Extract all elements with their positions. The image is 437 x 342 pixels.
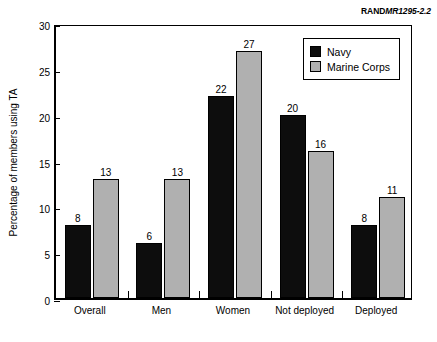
bar-men-navy bbox=[136, 243, 162, 298]
publisher-name: RAND bbox=[361, 6, 385, 16]
legend: NavyMarine Corps bbox=[303, 38, 400, 80]
x-axis-tick bbox=[271, 291, 272, 299]
bar-value-label: 16 bbox=[315, 139, 326, 150]
y-axis-tick-label: 20 bbox=[39, 112, 50, 123]
legend-label: Marine Corps bbox=[327, 61, 390, 73]
y-axis-tick bbox=[54, 301, 60, 302]
y-axis-tick-label: 25 bbox=[39, 66, 50, 77]
legend-swatch-icon bbox=[310, 61, 321, 72]
bar-value-label: 20 bbox=[287, 103, 298, 114]
y-axis-tick-label: 0 bbox=[44, 296, 50, 307]
x-axis-label-deployed: Deployed bbox=[355, 305, 397, 316]
bar-men-marine-corps bbox=[164, 179, 190, 298]
bar-not-deployed-navy bbox=[280, 115, 306, 298]
x-axis-label-overall: Overall bbox=[74, 305, 106, 316]
x-axis-label-not-deployed: Not deployed bbox=[275, 305, 334, 316]
bar-deployed-marine-corps bbox=[379, 197, 405, 298]
y-axis-tick bbox=[54, 26, 60, 27]
y-axis-tick-label: 10 bbox=[39, 204, 50, 215]
bar-value-label: 8 bbox=[75, 213, 81, 224]
y-axis-tick bbox=[54, 209, 60, 210]
x-axis-tick bbox=[342, 291, 343, 299]
bar-value-label: 6 bbox=[147, 231, 153, 242]
bar-value-label: 11 bbox=[387, 185, 397, 196]
legend-item-navy: Navy bbox=[310, 44, 390, 59]
bar-overall-navy bbox=[65, 225, 91, 298]
bar-overall-marine-corps bbox=[93, 179, 119, 298]
bar-value-label: 13 bbox=[172, 167, 183, 178]
y-axis-tick bbox=[54, 164, 60, 165]
bar-women-marine-corps bbox=[236, 51, 262, 299]
y-axis-tick-label: 30 bbox=[39, 21, 50, 32]
x-axis-label-women: Women bbox=[216, 305, 250, 316]
x-axis-tick bbox=[128, 291, 129, 299]
bar-value-label: 8 bbox=[361, 213, 367, 224]
figure-bar-chart: RANDMR1295-2.2 Percentage of members usi… bbox=[0, 0, 437, 342]
y-axis-title: Percentage of members using TA bbox=[8, 25, 22, 300]
legend-swatch-icon bbox=[310, 46, 321, 57]
bar-value-label: 13 bbox=[100, 167, 111, 178]
bar-value-label: 22 bbox=[215, 84, 226, 95]
bar-deployed-navy bbox=[351, 225, 377, 298]
legend-item-marine-corps: Marine Corps bbox=[310, 59, 390, 74]
y-axis-tick-label: 5 bbox=[44, 250, 50, 261]
report-identifier: RANDMR1295-2.2 bbox=[361, 6, 431, 16]
x-axis-tick bbox=[199, 291, 200, 299]
bar-not-deployed-marine-corps bbox=[308, 151, 334, 298]
legend-label: Navy bbox=[327, 46, 351, 58]
y-axis-tick-label: 15 bbox=[39, 158, 50, 169]
plot-area: 051015202530 81361322272016811 NavyMarin… bbox=[54, 25, 412, 300]
bar-women-navy bbox=[208, 96, 234, 298]
y-axis-tick bbox=[54, 118, 60, 119]
y-axis-tick bbox=[54, 72, 60, 73]
report-number: MR1295-2.2 bbox=[385, 6, 431, 16]
x-axis-label-men: Men bbox=[152, 305, 171, 316]
bar-value-label: 27 bbox=[243, 39, 254, 50]
y-axis-tick bbox=[54, 255, 60, 256]
